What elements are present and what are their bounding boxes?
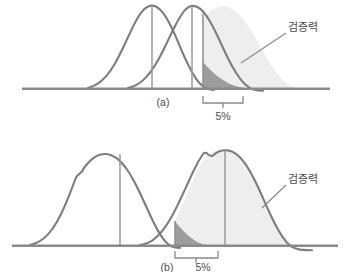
panel-b-caption: (b) (161, 261, 174, 272)
panel-a-power-label: 검증력 (288, 21, 318, 33)
panel-b-power-label: 검증력 (288, 173, 318, 185)
statistical-power-figure: 검증력 (a) 5% (0, 0, 345, 272)
figure-canvas: 검증력 (a) 5% (0, 0, 345, 272)
panel-a-alpha-label: 5% (215, 110, 230, 122)
panel-a-caption: (a) (157, 96, 170, 108)
panel-a-null-curve (88, 6, 214, 90)
panel-b-power-leader-line (262, 185, 286, 208)
panel-b-alpha-label: 5% (195, 261, 210, 272)
panel-b-null-curve (30, 154, 180, 248)
panel-a: 검증력 (a) 5% (22, 6, 330, 122)
panel-b: 검증력 (b) 5% (12, 150, 338, 272)
panel-a-alpha-bracket (203, 96, 243, 108)
